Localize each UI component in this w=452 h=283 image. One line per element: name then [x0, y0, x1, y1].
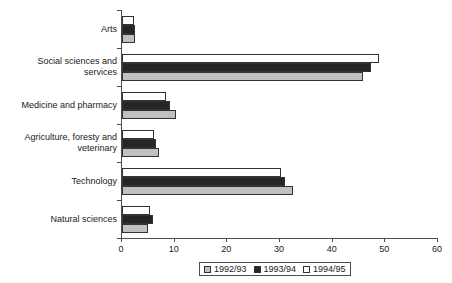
legend-swatch-icon [303, 266, 310, 273]
category-label: Social sciences andservices [5, 56, 117, 78]
category-label-line: Medicine and pharmacy [5, 100, 117, 111]
legend-item[interactable]: 1992/93 [204, 264, 247, 274]
category-axis-labels: ArtsSocial sciences andservicesMedicine … [0, 10, 117, 238]
value-axis-tick [279, 238, 280, 242]
category-label-line: services [5, 67, 117, 78]
category-label-line: Natural sciences [5, 214, 117, 225]
category-label: Arts [5, 24, 117, 35]
legend-swatch-icon [254, 266, 261, 273]
legend-label: 1994/95 [313, 264, 346, 274]
category-label: Technology [5, 176, 117, 187]
category-label-line: Agriculture, foresty and [5, 132, 117, 143]
value-axis-tick-label: 50 [379, 244, 389, 255]
scan-top-edge [0, 0, 452, 3]
bar-chart: ArtsSocial sciences andservicesMedicine … [0, 0, 452, 283]
value-axis-tick [437, 238, 438, 242]
legend-swatch-icon [204, 266, 211, 273]
value-axis-tick-labels: 0102030405060 [121, 10, 437, 238]
value-axis-tick [384, 238, 385, 242]
chart-legend: 1992/931993/941994/95 [199, 262, 351, 276]
legend-item[interactable]: 1994/95 [303, 264, 346, 274]
value-axis-tick-label: 30 [274, 244, 284, 255]
legend-item[interactable]: 1993/94 [254, 264, 297, 274]
category-label-line: Technology [5, 176, 117, 187]
category-label: Agriculture, foresty andveterinary [5, 132, 117, 154]
value-axis-tick [332, 238, 333, 242]
value-axis-tick [174, 238, 175, 242]
category-label-line: Arts [5, 24, 117, 35]
category-label-line: Social sciences and [5, 56, 117, 67]
value-axis-tick-label: 60 [432, 244, 442, 255]
category-label-line: veterinary [5, 143, 117, 154]
legend-label: 1992/93 [214, 264, 247, 274]
value-axis-tick-label: 10 [169, 244, 179, 255]
category-label: Natural sciences [5, 214, 117, 225]
value-axis-tick [121, 238, 122, 242]
category-label: Medicine and pharmacy [5, 100, 117, 111]
value-axis-tick [226, 238, 227, 242]
value-axis-tick-label: 0 [118, 244, 123, 255]
legend-label: 1993/94 [264, 264, 297, 274]
value-axis-tick-label: 40 [327, 244, 337, 255]
value-axis-tick-label: 20 [221, 244, 231, 255]
